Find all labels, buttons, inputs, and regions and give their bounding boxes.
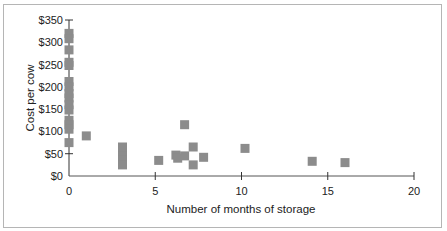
scatter-chart: $0$50$100$150$200$250$300$350 05101520 C…	[0, 0, 447, 231]
data-points	[65, 29, 350, 170]
y-tick-label: $250	[39, 59, 63, 71]
y-tick-label: $100	[39, 125, 63, 137]
data-point	[118, 160, 127, 169]
data-point	[82, 131, 91, 140]
data-point	[65, 45, 74, 54]
data-point	[189, 143, 198, 152]
y-tick-label: $200	[39, 81, 63, 93]
x-axis: 05101520	[66, 172, 420, 197]
data-point	[65, 61, 74, 70]
x-tick-label: 10	[235, 185, 247, 197]
data-point	[65, 125, 74, 134]
x-axis-title: Number of months of storage	[167, 203, 316, 215]
y-axis-title: Cost per cow	[24, 64, 36, 132]
y-tick-label: $150	[39, 103, 63, 115]
y-tick-label: $0	[51, 170, 63, 182]
x-tick-label: 5	[152, 185, 158, 197]
data-point	[180, 120, 189, 129]
x-tick-label: 20	[408, 185, 420, 197]
data-point	[65, 106, 74, 115]
data-point	[189, 160, 198, 169]
data-point	[241, 144, 250, 153]
data-point	[199, 153, 208, 162]
y-tick-label: $50	[45, 148, 63, 160]
y-tick-label: $350	[39, 14, 63, 26]
x-tick-label: 0	[66, 185, 72, 197]
data-point	[65, 138, 74, 147]
y-tick-label: $300	[39, 36, 63, 48]
data-point	[65, 34, 74, 43]
data-point	[308, 157, 317, 166]
data-point	[180, 151, 189, 160]
data-point	[341, 158, 350, 167]
data-point	[154, 156, 163, 165]
x-tick-label: 15	[322, 185, 334, 197]
